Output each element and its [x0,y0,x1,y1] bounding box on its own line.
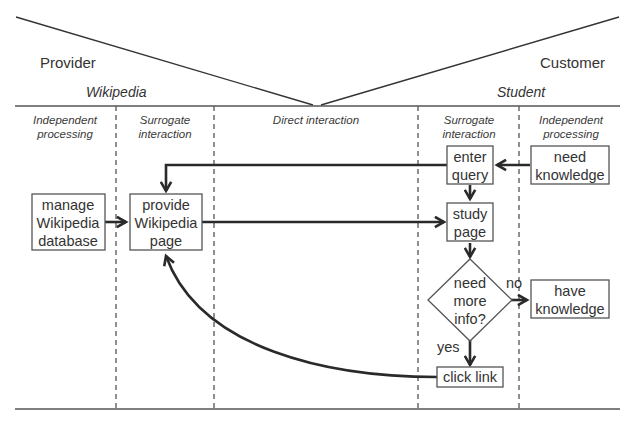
svg-text:Independent: Independent [33,114,98,126]
svg-text:Surrogate: Surrogate [140,114,191,126]
lane-label-provider-surrogate: Surrogate interaction [138,114,191,140]
arrow-enter-to-provide [166,165,447,191]
svg-text:manage: manage [42,197,94,213]
svg-text:processing: processing [542,128,599,140]
svg-text:have: have [554,283,585,299]
svg-text:provide: provide [142,197,190,213]
node-manage-wikipedia-database: manage Wikipedia database [32,194,105,250]
svg-text:page: page [454,224,486,240]
svg-text:query: query [452,167,489,183]
node-click-link: click link [437,367,503,387]
node-decision-need-more-info: need more info? [428,259,512,341]
svg-text:interaction: interaction [138,128,191,140]
svg-text:page: page [150,233,182,249]
node-provide-wikipedia-page: provide Wikipedia page [130,194,202,250]
lane-label-provider-independent: Independent processing [33,114,98,140]
service-blueprint-diagram: Provider Customer Wikipedia Student Inde… [0,0,635,423]
edge-label-yes: yes [437,339,460,355]
svg-text:knowledge: knowledge [535,167,604,183]
svg-text:need: need [554,149,586,165]
node-have-knowledge: have knowledge [531,280,609,318]
svg-text:Surrogate: Surrogate [444,114,495,126]
lane-label-direct: Direct interaction [273,114,359,126]
svg-text:need: need [454,275,486,291]
svg-text:database: database [38,233,98,249]
svg-text:processing: processing [36,128,93,140]
lane-label-customer-independent: Independent processing [539,114,604,140]
lane-label-customer-surrogate: Surrogate interaction [442,114,495,140]
node-study-page: study page [447,203,493,241]
svg-text:Independent: Independent [539,114,604,126]
svg-text:Direct interaction: Direct interaction [273,114,359,126]
customer-label: Customer [540,54,605,71]
arrow-click-to-provide [166,256,437,377]
svg-text:interaction: interaction [442,128,495,140]
svg-text:Wikipedia: Wikipedia [37,215,101,231]
svg-text:knowledge: knowledge [535,301,604,317]
svg-text:study: study [453,206,488,222]
svg-text:click link: click link [443,369,498,385]
node-enter-query: enter query [447,146,493,184]
edge-label-no: no [506,275,522,291]
svg-text:info?: info? [454,311,485,327]
node-need-knowledge: need knowledge [531,146,609,184]
customer-name: Student [497,84,546,100]
provider-label: Provider [40,54,96,71]
provider-name: Wikipedia [86,84,147,100]
svg-text:more: more [453,293,486,309]
svg-text:enter: enter [453,149,486,165]
svg-text:Wikipedia: Wikipedia [135,215,199,231]
